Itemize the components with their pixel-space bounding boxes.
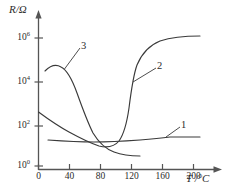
x-axis-arrowhead (214, 166, 223, 172)
x-tick-label-200: 200 (185, 171, 203, 181)
curve-1-leader-line (166, 127, 180, 137)
chart-plot-area (0, 0, 232, 193)
y-tick-exponent: 4 (27, 74, 30, 81)
x-tick-label-40: 40 (61, 171, 79, 181)
y-tick-mantissa: 10 (17, 160, 27, 170)
y-tick-label-10e2: 102 (8, 120, 30, 130)
x-tick-label-80: 80 (92, 171, 110, 181)
y-tick-mantissa: 10 (17, 32, 27, 42)
curve-label-3: 3 (81, 40, 86, 51)
x-tick-label-120: 120 (123, 171, 141, 181)
y-tick-exponent: 6 (27, 30, 30, 37)
y-tick-label-10e6: 106 (8, 32, 30, 42)
y-tick-exponent: 0 (27, 158, 30, 165)
y-tick-mantissa: 10 (17, 76, 27, 86)
x-tick-label-160: 160 (154, 171, 172, 181)
curve-label-2: 2 (157, 60, 162, 71)
chart-container: R/Ω T /°C 106 104 102 100 0 40 80 120 16… (0, 0, 232, 193)
curve-3-leader-line (65, 48, 81, 69)
y-axis-arrowhead (35, 10, 41, 19)
y-tick-mantissa: 10 (17, 120, 27, 130)
y-tick-label-10e0: 100 (8, 160, 30, 170)
y-tick-exponent: 2 (27, 118, 30, 125)
curve-1-path (48, 137, 200, 142)
curve-2-leader-line (133, 68, 156, 82)
curve-label-1: 1 (181, 119, 186, 130)
x-tick-label-0: 0 (30, 171, 48, 181)
y-tick-label-10e4: 104 (8, 76, 30, 86)
y-axis-title: R/Ω (9, 3, 27, 15)
